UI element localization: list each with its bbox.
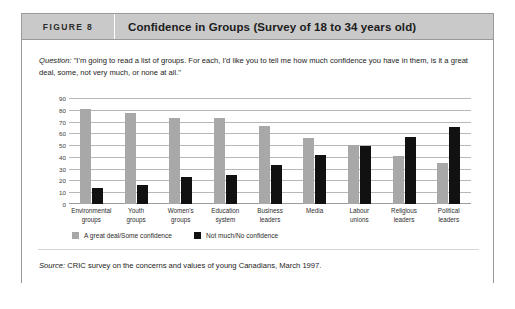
bar-series-a [214, 118, 225, 204]
legend-label: Not much/No confidence [206, 232, 278, 239]
category-label-line: Education [204, 207, 247, 216]
category-label-line: unions [338, 216, 381, 225]
category-label-line: groups [70, 216, 113, 225]
figure-header: FIGURE 8 Confidence in Groups (Survey of… [22, 14, 493, 40]
y-axis-tick-label: 90 [59, 95, 66, 102]
category-label-line: leaders [249, 216, 292, 225]
category-label: Women'sgroups [158, 207, 203, 225]
category-label-line: Women's [159, 207, 202, 216]
bar-series-a [393, 156, 404, 204]
y-axis-tick-label: 30 [59, 165, 66, 172]
source-block: Source: CRIC survey on the concerns and … [39, 261, 321, 270]
figure-card: FIGURE 8 Confidence in Groups (Survey of… [21, 13, 494, 283]
bar-series-b [137, 185, 148, 204]
category-label: Religiousleaders [382, 207, 427, 225]
bar-group [248, 98, 293, 204]
legend-item: Not much/No confidence [194, 232, 278, 239]
category-label-line: Political [427, 207, 470, 216]
y-axis-tick-label: 50 [59, 142, 66, 149]
category-label-line: groups [115, 216, 158, 225]
bar-series-b [271, 165, 282, 204]
bar-series-b [449, 127, 460, 204]
bar-group [382, 98, 427, 204]
category-label-line: Religious [383, 207, 426, 216]
bar-series-b [181, 177, 192, 204]
figure-number-cell: FIGURE 8 [22, 14, 115, 39]
y-axis-tick-label: 60 [59, 130, 66, 137]
category-label: Politicalleaders [426, 207, 471, 225]
y-axis-tick-label: 20 [59, 177, 66, 184]
question-label: Question: [39, 56, 72, 65]
category-label: Businessleaders [248, 207, 293, 225]
y-axis-tick-label: 70 [59, 118, 66, 125]
legend-swatch-icon [72, 232, 79, 239]
chart-legend: A great deal/Some confidenceNot much/No … [72, 232, 278, 239]
category-label: Labourunions [337, 207, 382, 225]
bar-series-a [80, 109, 91, 204]
category-label-line: leaders [383, 216, 426, 225]
figure-body: Question: "I'm going to read a list of g… [22, 40, 493, 283]
bar-group [426, 98, 471, 204]
category-label-line: system [204, 216, 247, 225]
y-axis: 0102030405060708090 [48, 98, 68, 204]
legend-swatch-icon [194, 232, 201, 239]
bar-series-a [303, 138, 314, 204]
bar-series-a [259, 126, 270, 204]
y-axis-tick-label: 40 [59, 153, 66, 160]
category-label: Youthgroups [114, 207, 159, 225]
bar-group [337, 98, 382, 204]
bar-group [203, 98, 248, 204]
bar-groups [69, 98, 471, 204]
bar-series-b [92, 188, 103, 204]
legend-item: A great deal/Some confidence [72, 232, 172, 239]
bar-series-b [360, 146, 371, 204]
bar-series-a [348, 145, 359, 204]
source-label: Source: [39, 261, 65, 270]
category-label-line: Youth [115, 207, 158, 216]
category-label-line: Environmental [70, 207, 113, 216]
figure-title: Confidence in Groups (Survey of 18 to 34… [128, 21, 416, 33]
bar-group [158, 98, 203, 204]
category-label-line: groups [159, 216, 202, 225]
source-text: CRIC survey on the concerns and values o… [65, 261, 321, 270]
bar-group [69, 98, 114, 204]
chart-plot-area: 0102030405060708090 [48, 98, 471, 204]
bar-group [114, 98, 159, 204]
category-label: Educationsystem [203, 207, 248, 225]
category-label-line: leaders [427, 216, 470, 225]
category-label-line: Labour [338, 207, 381, 216]
bar-group [292, 98, 337, 204]
source-divider [38, 249, 479, 250]
category-label: Environmentalgroups [69, 207, 114, 225]
bar-series-b [315, 155, 326, 204]
bar-series-a [437, 163, 448, 204]
y-axis-tick-label: 0 [63, 201, 66, 208]
question-block: Question: "I'm going to read a list of g… [39, 55, 469, 80]
bar-series-b [405, 137, 416, 204]
figure-title-cell: Confidence in Groups (Survey of 18 to 34… [115, 14, 493, 39]
figure-number-label: FIGURE 8 [43, 22, 93, 32]
category-label-line: Media [293, 207, 336, 216]
question-text: "I'm going to read a list of groups. For… [39, 56, 468, 77]
x-axis-category-labels: EnvironmentalgroupsYouthgroupsWomen'sgro… [69, 207, 471, 225]
bar-series-a [169, 118, 180, 204]
legend-label: A great deal/Some confidence [84, 232, 172, 239]
category-label-line: Business [249, 207, 292, 216]
y-axis-tick-label: 10 [59, 189, 66, 196]
bar-series-a [125, 113, 136, 204]
y-axis-tick-label: 80 [59, 106, 66, 113]
bar-series-b [226, 175, 237, 204]
category-label: Media [292, 207, 337, 225]
